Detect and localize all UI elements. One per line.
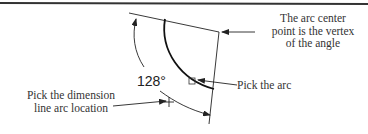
arc-callout: Pick the arc xyxy=(237,79,291,92)
dimension-location-callout: Pick the dimension line arc location xyxy=(16,89,126,114)
angle-dimension-value: 128° xyxy=(137,73,166,89)
dimension-location-line-1: Pick the dimension xyxy=(16,89,126,102)
vertex-callout-line-3: of the angle xyxy=(258,37,368,50)
dimension-location-line-2: line arc location xyxy=(16,102,126,115)
lower-angle-line xyxy=(209,32,219,124)
dimension-arc-upper xyxy=(134,19,144,67)
vertex-callout-line-2: point is the vertex xyxy=(258,25,368,38)
angular-dimension-diagram: 128° The arc center point is the vertex … xyxy=(0,0,368,134)
vertex-callout-line-1: The arc center xyxy=(258,12,368,25)
top-rule xyxy=(0,3,368,4)
vertex-callout: The arc center point is the vertex of th… xyxy=(258,12,368,50)
dimension-arc-lower xyxy=(160,91,210,115)
arc-leader xyxy=(198,80,237,85)
upper-angle-line xyxy=(129,13,219,32)
